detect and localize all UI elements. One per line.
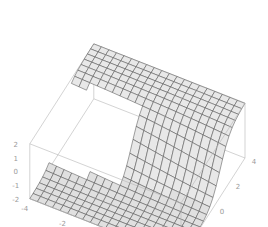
surface-plot: -4-2024-4-2024-2-1012 [0,0,268,227]
y-tick-label: 2 [236,183,240,191]
x-tick-label: -2 [59,220,66,227]
surface-mesh [30,44,245,227]
y-tick-label: 4 [252,158,257,166]
x-tick-label: -4 [21,205,29,213]
y-tick-label: 0 [220,208,224,216]
z-tick-label: 0 [14,168,18,176]
z-tick-label: 1 [14,155,18,163]
z-tick-label: -1 [12,182,19,190]
z-tick-label: -2 [12,196,19,204]
z-tick-label: 2 [14,141,18,149]
